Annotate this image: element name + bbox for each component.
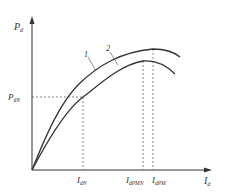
idpm-label: IdPM xyxy=(151,175,166,186)
curve-2 xyxy=(32,61,175,170)
idpmn-label: IdPMN xyxy=(125,175,144,186)
guide-lines xyxy=(32,49,153,170)
pdn-label: PdN xyxy=(7,92,20,103)
x-axis xyxy=(32,168,212,173)
x-axis-label: Id xyxy=(203,175,211,187)
y-axis-label: Pd xyxy=(13,21,24,33)
y-axis xyxy=(30,16,35,170)
idn-label: IdN xyxy=(76,175,87,186)
x-axis-arrow-icon xyxy=(204,168,212,173)
svg-text:1: 1 xyxy=(84,50,88,59)
svg-text:2: 2 xyxy=(106,44,110,53)
curve-1 xyxy=(32,49,180,170)
y-axis-arrow-icon xyxy=(30,16,35,24)
power-current-diagram: 1 2 Pd Id PdN IdN IdPMN IdPM xyxy=(0,0,229,192)
curve-1-label: 1 xyxy=(84,50,96,71)
